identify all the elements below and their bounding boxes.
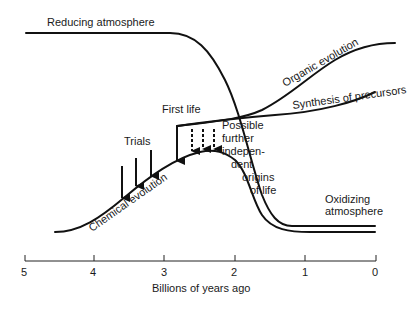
chemical-evolution-label: Chemical evolution xyxy=(86,171,169,234)
tick-label: 3 xyxy=(161,266,167,278)
oxidizing-atmosphere-label-line2: atmosphere xyxy=(325,205,383,217)
svg-text:of life: of life xyxy=(250,184,276,196)
tick-label: 5 xyxy=(21,266,27,278)
svg-text:dent: dent xyxy=(231,158,252,170)
trials-label: Trials xyxy=(124,135,151,147)
time-axis: 5 4 3 2 1 0 Billions of years ago xyxy=(21,255,378,294)
tick-label: 2 xyxy=(231,266,237,278)
reducing-atmosphere-label: Reducing atmosphere xyxy=(47,16,155,28)
axis-label: Billions of years ago xyxy=(152,282,250,294)
svg-text:further: further xyxy=(222,132,254,144)
tick-label: 1 xyxy=(302,266,308,278)
oxidizing-atmosphere-label-line1: Oxidizing xyxy=(325,193,370,205)
possible-origins-label: Possible further indepen- dent origins o… xyxy=(222,119,276,196)
svg-text:Possible: Possible xyxy=(222,119,264,131)
tick-label: 4 xyxy=(90,266,96,278)
svg-text:indepen-: indepen- xyxy=(222,145,265,157)
synthesis-of-precursors-label: Synthesis of precursors xyxy=(292,83,408,111)
evolution-diagram: Reducing atmosphere Chemical evolution S… xyxy=(0,0,417,310)
tick-label: 0 xyxy=(372,266,378,278)
organic-evolution-label: Organic evolution xyxy=(280,36,360,89)
first-life-label: First life xyxy=(162,103,201,115)
svg-text:origins: origins xyxy=(242,171,275,183)
